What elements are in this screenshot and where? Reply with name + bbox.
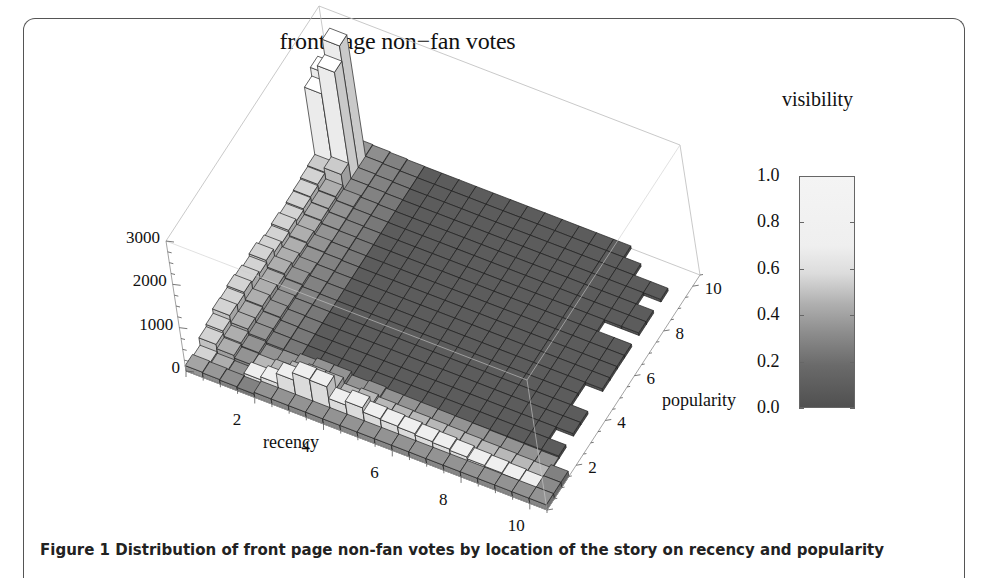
colorbar-tick-mark (850, 362, 855, 363)
colorbar-tick-mark (850, 315, 855, 316)
colorbar-tick-mark (799, 362, 804, 363)
colorbar-tick-mark (850, 176, 855, 177)
colorbar-tick-mark (799, 222, 804, 223)
x-tick-label: 10 (508, 516, 525, 535)
colorbar-tick-label: 0.0 (757, 397, 795, 418)
z-tick-label: 0 (172, 358, 181, 377)
colorbar-tick-mark (850, 408, 855, 409)
colorbar-tick-label: 1.0 (757, 165, 795, 186)
legend-title: visibility (782, 88, 853, 111)
y-tick-label: 4 (617, 413, 626, 432)
y-tick-label: 6 (646, 369, 655, 388)
y-tick-label: 8 (676, 324, 685, 343)
x-tick-label: 8 (439, 490, 448, 509)
x-axis-title: recency (263, 432, 319, 452)
x-tick-label: 2 (233, 410, 242, 429)
y-axis-title: popularity (662, 390, 736, 410)
z-tick-label: 2000 (133, 271, 167, 290)
colorbar-tick-mark (799, 408, 804, 409)
z-tick-label: 1000 (139, 315, 173, 334)
colorbar-tick-label: 0.4 (757, 304, 795, 325)
colorbar-tick-label: 0.2 (757, 351, 795, 372)
colorbar-tick-mark (850, 222, 855, 223)
y-tick-label: 2 (588, 458, 597, 477)
colorbar-tick-label: 0.6 (757, 258, 795, 279)
colorbar-tick-label: 0.8 (757, 211, 795, 232)
colorbar-tick-mark (799, 176, 804, 177)
colorbar (799, 176, 855, 408)
figure-caption: Figure 1 Distribution of front page non-… (40, 541, 884, 559)
colorbar-tick-mark (799, 269, 804, 270)
y-tick-label: 10 (705, 279, 722, 298)
colorbar-tick-mark (850, 269, 855, 270)
colorbar-tick-mark (799, 315, 804, 316)
z-tick-label: 3000 (126, 228, 160, 247)
x-tick-label: 6 (370, 463, 379, 482)
